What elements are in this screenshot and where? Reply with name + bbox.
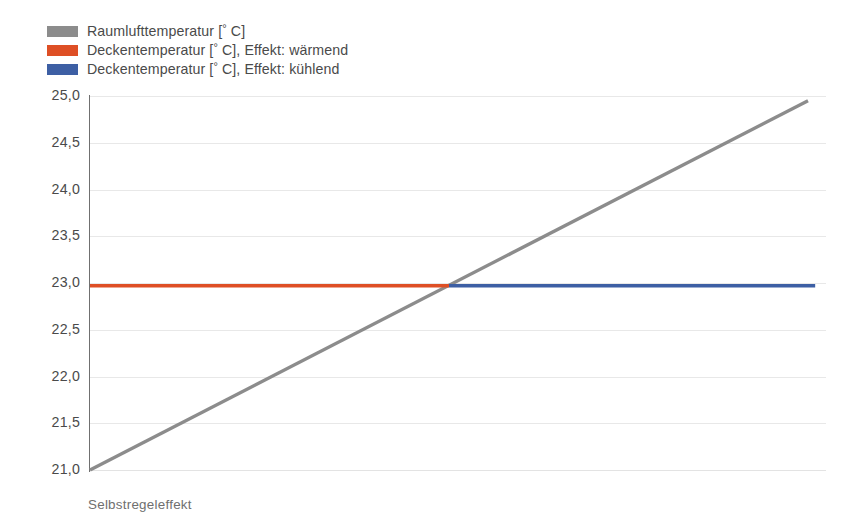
data-series-group — [90, 101, 815, 470]
grid-lines — [90, 97, 826, 424]
plot-area — [0, 0, 847, 525]
figure-caption: Selbstregeleffekt — [88, 497, 192, 512]
chart-figure: Raumlufttemperatur [° C] Deckentemperatu… — [0, 0, 847, 525]
